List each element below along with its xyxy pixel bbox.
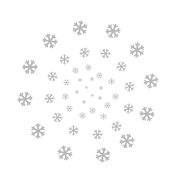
- snowflake-icon: [104, 102, 111, 109]
- snowflake-icon: [75, 90, 79, 94]
- snowflake-icon: [116, 61, 127, 72]
- snowflake-icon: [96, 72, 103, 79]
- snowflake-icon: [100, 113, 107, 120]
- snowflake-icon: [112, 93, 119, 100]
- snowflake-icon: [85, 64, 92, 71]
- snowflake-icon: [68, 125, 79, 136]
- snowflake-icon: [59, 54, 70, 65]
- snowflake-icon: [105, 23, 121, 39]
- snowflake-icon: [42, 33, 58, 49]
- snowflake-icon: [89, 107, 96, 114]
- snowflake-icon: [44, 93, 55, 104]
- snowflake-icon: [57, 145, 73, 161]
- snowflake-icon: [99, 86, 103, 90]
- snowflake-icon: [52, 112, 63, 123]
- snowflake-icon: [98, 96, 102, 100]
- snowflake-icon: [85, 86, 88, 89]
- snowflake-icon: [95, 147, 111, 163]
- snowflake-icon: [92, 129, 103, 140]
- snowflake-icon: [47, 71, 58, 82]
- snowflake-icon: [143, 73, 159, 89]
- snowflake-icon: [17, 91, 33, 107]
- snowflake-icon: [90, 77, 94, 81]
- snowflake-icon: [72, 20, 88, 36]
- snowflake-icon: [108, 78, 115, 85]
- snowflake-icon: [78, 78, 82, 82]
- snowflake-icon: [139, 106, 155, 122]
- snowflake-icon: [62, 93, 69, 100]
- snowflake-icon: [30, 123, 46, 139]
- snowflake-icon: [100, 48, 111, 59]
- snowflake-icon: [129, 42, 145, 58]
- snowflake-icon: [72, 67, 79, 74]
- snowflake-icon: [63, 79, 70, 86]
- snowflake-icon: [123, 103, 134, 114]
- snowflake-icon: [82, 100, 86, 104]
- snowflake-icon: [91, 94, 94, 97]
- snowflake-icon: [119, 133, 135, 149]
- snowflake-icon: [79, 47, 90, 58]
- snowflake-icon: [22, 59, 38, 75]
- snowflake-icon: [124, 81, 135, 92]
- snowflake-spiral-canvas: [0, 0, 176, 184]
- snowflake-icon: [111, 121, 122, 132]
- snowflake-icon: [79, 112, 86, 119]
- snowflake-icon: [66, 105, 73, 112]
